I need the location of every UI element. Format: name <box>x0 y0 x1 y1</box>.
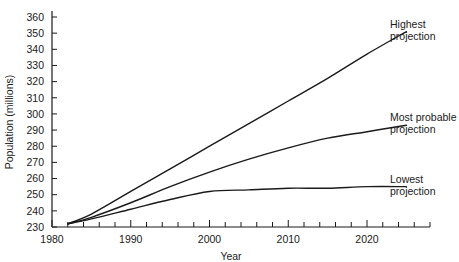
y-axis-title: Population (millions) <box>3 75 15 170</box>
x-tick-label-2010: 2010 <box>277 233 301 245</box>
y-axis-tick-labels: 2302402502602702802903003103203303403503… <box>26 11 44 233</box>
series-label-line2-2: projection <box>390 185 436 197</box>
y-tick-label-330: 330 <box>26 59 44 71</box>
y-tick-label-320: 320 <box>26 75 44 87</box>
series-label-2: Lowestprojection <box>390 173 436 197</box>
series-label-line1-1: Most probable <box>390 111 457 123</box>
y-tick-label-230: 230 <box>26 221 44 233</box>
y-tick-label-240: 240 <box>26 205 44 217</box>
population-projection-chart: 2302402502602702802903003103203303403503… <box>0 0 459 262</box>
y-tick-label-310: 310 <box>26 92 44 104</box>
y-tick-label-350: 350 <box>26 27 44 39</box>
series-labels-group: HighestprojectionMost probableprojection… <box>390 18 457 197</box>
series-label-line1-0: Highest <box>390 18 426 30</box>
series-line-2 <box>68 187 407 224</box>
y-tick-label-290: 290 <box>26 124 44 136</box>
series-line-0 <box>68 32 407 224</box>
chart-canvas: 2302402502602702802903003103203303403503… <box>0 0 459 262</box>
series-label-0: Highestprojection <box>390 18 436 42</box>
series-line-1 <box>68 125 407 224</box>
y-axis-ticks <box>52 17 57 227</box>
series-label-1: Most probableprojection <box>390 111 457 135</box>
y-tick-label-250: 250 <box>26 188 44 200</box>
series-label-line1-2: Lowest <box>390 173 423 185</box>
x-axis-tick-labels: 19801990200020102020 <box>40 233 379 245</box>
series-label-line2-1: projection <box>390 123 436 135</box>
x-tick-label-1980: 1980 <box>40 233 64 245</box>
x-axis-ticks <box>52 220 430 227</box>
y-tick-label-270: 270 <box>26 156 44 168</box>
y-tick-label-340: 340 <box>26 43 44 55</box>
y-tick-label-360: 360 <box>26 11 44 23</box>
axes <box>52 11 430 227</box>
series-label-line2-0: projection <box>390 30 436 42</box>
x-tick-label-2020: 2020 <box>355 233 379 245</box>
y-tick-label-260: 260 <box>26 172 44 184</box>
x-axis-title: Year <box>220 250 242 262</box>
x-tick-label-2000: 2000 <box>198 233 222 245</box>
y-tick-label-300: 300 <box>26 108 44 120</box>
data-series-group <box>68 32 407 224</box>
x-tick-label-1990: 1990 <box>119 233 143 245</box>
y-tick-label-280: 280 <box>26 140 44 152</box>
